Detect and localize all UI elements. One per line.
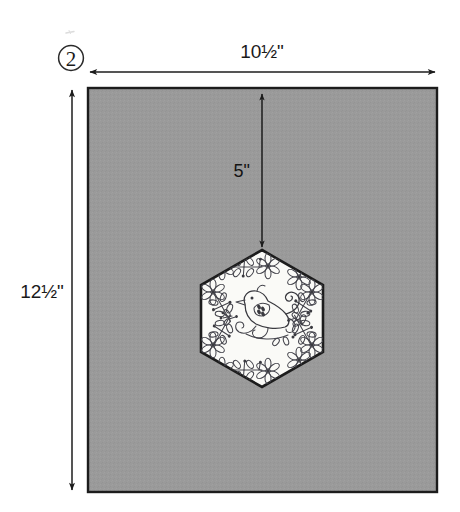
figure-canvas: 2 10½" 12½" 5" — [0, 0, 460, 512]
bird-eye — [251, 297, 254, 300]
height-dimension-label: 12½" — [20, 281, 64, 302]
width-dimension: 10½" — [90, 41, 435, 72]
height-dimension: 12½" — [20, 90, 72, 490]
step-number-badge: 2 — [59, 46, 84, 71]
inset-dimension-label: 5" — [234, 161, 250, 181]
quilt-block-diagram: 2 10½" 12½" 5" — [0, 0, 460, 512]
stray-pencil-mark — [66, 31, 74, 34]
width-dimension-label: 10½" — [240, 41, 284, 62]
step-number-label: 2 — [66, 47, 77, 71]
